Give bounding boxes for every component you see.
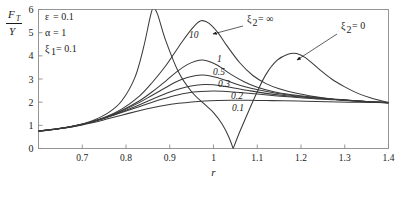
curve-label: 0.1 xyxy=(232,103,244,113)
x-tick-label: 1 xyxy=(211,153,216,163)
y-tick-label: 3 xyxy=(29,74,34,85)
parameter-item: ξ1= 0.1 xyxy=(45,43,77,57)
parameter-symbol: ε xyxy=(45,11,49,22)
parameter-value: = 0.1 xyxy=(56,43,77,54)
y-tick-label: 4 xyxy=(29,50,34,61)
curve-clip-group xyxy=(39,8,389,148)
y-axis-label-numerator-subscript: T xyxy=(16,14,21,23)
parameter-symbol: ξ xyxy=(45,43,50,55)
x-tick-label: 0.8 xyxy=(120,153,132,163)
curve-label: 0.2 xyxy=(231,91,243,101)
y-axis-label-denominator: Y xyxy=(9,25,17,37)
parameter-item: α= 1 xyxy=(45,27,66,38)
y-tick-label: 5 xyxy=(29,27,34,38)
annotation-value: = ∞ xyxy=(258,13,273,24)
annotation-arrow xyxy=(297,34,337,60)
y-axis-label-numerator: F xyxy=(7,8,15,20)
annotation-group: ξ2= ∞ξ2= 0 xyxy=(213,13,365,60)
figure-container: 0.70.80.911.11.21.31.40123456 FTYrε= 0.1… xyxy=(0,0,405,201)
curve-label: 0.3 xyxy=(218,79,230,89)
y-axis-label: FTY xyxy=(6,8,22,37)
y-tick-label: 2 xyxy=(29,97,34,108)
parameter-value: = 1 xyxy=(53,27,66,38)
x-tick-label: 0.9 xyxy=(164,153,176,163)
annotation-value: = 0 xyxy=(352,20,365,31)
x-tick-label: 1.3 xyxy=(339,153,351,163)
parameter-symbol: α xyxy=(45,27,51,38)
annotation-xi2-zero: ξ2= 0 xyxy=(297,20,365,60)
parameter-value: = 0.1 xyxy=(53,11,74,22)
annotation-subscript: 2 xyxy=(253,17,258,28)
x-tick-label: 0.7 xyxy=(76,153,88,163)
parameter-list: ε= 0.1α= 1ξ1= 0.1 xyxy=(45,11,77,57)
y-tick-label: 1 xyxy=(29,120,34,131)
curve-label: 10 xyxy=(189,30,199,40)
annotation-symbol: ξ xyxy=(247,13,252,25)
x-tick-label: 1.2 xyxy=(295,153,307,163)
y-tick-label: 0 xyxy=(29,143,34,154)
x-axis-label: r xyxy=(211,166,216,178)
parameter-item: ε= 0.1 xyxy=(45,11,74,22)
x-tick-label: 1.1 xyxy=(251,153,263,163)
annotation-xi2-infinity: ξ2= ∞ xyxy=(213,13,273,34)
annotation-arrow xyxy=(213,26,243,34)
curve-0-1 xyxy=(39,100,389,131)
curve-label: 0.5 xyxy=(213,67,225,77)
annotation-symbol: ξ xyxy=(341,20,346,32)
y-tick-label: 6 xyxy=(29,4,34,15)
axes-box xyxy=(39,10,389,149)
curve-label: 1 xyxy=(217,54,222,64)
axis-ticks: 0.70.80.911.11.21.31.40123456 xyxy=(29,4,395,162)
plot-frame xyxy=(39,10,389,149)
annotation-subscript: 2 xyxy=(347,24,352,35)
x-tick-label: 1.4 xyxy=(383,153,395,163)
curve-0-2 xyxy=(39,91,389,131)
data-curves xyxy=(39,8,389,148)
chart-svg: 0.70.80.911.11.21.31.40123456 FTYrε= 0.1… xyxy=(0,0,405,201)
